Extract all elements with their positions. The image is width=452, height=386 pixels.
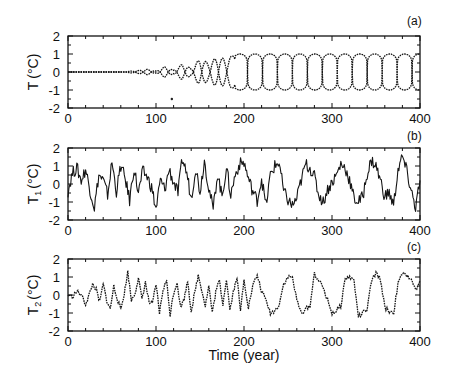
series-c (68, 271, 420, 318)
x-tick-label: 0 (64, 334, 71, 349)
x-tick-label: 100 (145, 334, 167, 349)
x-axis-title: Time (year) (208, 347, 279, 363)
x-tick-label: 300 (321, 334, 343, 349)
figure: (a) 210-1-2 0100200300400 T(°C) (b) 210-… (0, 0, 452, 386)
y-tick-label: 2 (53, 29, 60, 44)
y-axis-title-b: T1(°C) (25, 164, 43, 205)
x-tick-label: 100 (145, 223, 167, 238)
x-tick-label: 0 (64, 223, 71, 238)
series-b (68, 155, 420, 212)
y-tick-labels-a: 210-1-2 (48, 29, 60, 116)
series-line (68, 54, 420, 90)
y-axis-title-c: T2(°C) (25, 275, 43, 316)
series-a (68, 54, 420, 100)
panel-label-b: (b) (407, 129, 422, 143)
x-tick-label: 200 (233, 223, 255, 238)
x-tick-label: 0 (64, 111, 71, 126)
panel-c: (c) 210-1-2 0100200300400 T2(°C) (25, 240, 431, 349)
y-tick-label: 1 (53, 270, 60, 285)
y-tick-label: 1 (53, 47, 60, 62)
tick-marks-c (68, 259, 420, 331)
x-tick-labels-a: 0100200300400 (64, 111, 430, 126)
panel-label-c: (c) (407, 240, 421, 254)
series-line (68, 271, 420, 318)
y-tick-label: 0 (53, 288, 60, 303)
tick-marks-b (68, 148, 420, 220)
x-tick-label: 400 (409, 334, 431, 349)
y-tick-label: 0 (53, 177, 60, 192)
y-tick-label: -2 (48, 101, 60, 116)
x-tick-label: 300 (321, 223, 343, 238)
x-tick-label: 400 (409, 111, 431, 126)
y-tick-label: 2 (53, 252, 60, 267)
x-tick-label: 300 (321, 111, 343, 126)
x-tick-label: 400 (409, 223, 431, 238)
x-tick-label: 200 (233, 111, 255, 126)
annotation-mark (171, 98, 173, 100)
y-tick-label: 1 (53, 159, 60, 174)
y-tick-label: -1 (48, 195, 60, 210)
y-tick-label: 0 (53, 65, 60, 80)
y-tick-label: 2 (53, 141, 60, 156)
series-line (68, 155, 420, 212)
y-tick-label: -2 (48, 324, 60, 339)
y-tick-label: -2 (48, 213, 60, 228)
plot-frame-b (68, 148, 420, 220)
panel-b: (b) 210-1-2 0100200300400 T1(°C) (25, 129, 431, 238)
y-tick-label: -1 (48, 306, 60, 321)
x-tick-labels-b: 0100200300400 (64, 223, 430, 238)
y-axis-title-a: T(°C) (25, 54, 41, 91)
plot-frame-c (68, 259, 420, 331)
panel-label-a: (a) (407, 14, 422, 28)
panel-a: (a) 210-1-2 0100200300400 T(°C) (25, 14, 431, 126)
x-tick-label: 100 (145, 111, 167, 126)
y-tick-labels-b: 210-1-2 (48, 141, 60, 228)
y-tick-label: -1 (48, 83, 60, 98)
y-tick-labels-c: 210-1-2 (48, 252, 60, 339)
